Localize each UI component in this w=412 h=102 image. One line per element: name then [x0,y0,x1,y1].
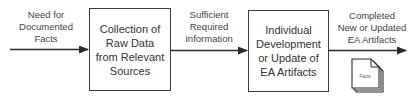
process-collection-text: Collection of Raw Data from Relevant Sou… [96,22,164,78]
output-label: Completed New or Updated EA Artifacts [332,10,412,46]
document-icon-label: Facts [359,74,371,79]
process-development-text: Individual Development or Update of EA A… [256,23,321,79]
process-development-box: Individual Development or Update of EA A… [248,10,329,92]
intermediate-label: Sufficient Required Information [176,9,242,45]
process-collection-box: Collection of Raw Data from Relevant Sou… [89,8,171,91]
document-stack-icon: Facts [350,56,390,94]
input-label: Need for Documented Facts [10,9,82,45]
